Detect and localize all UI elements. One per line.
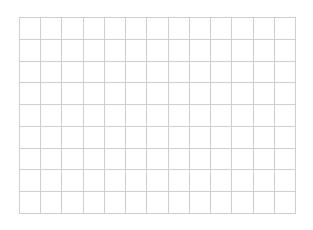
grid-cell: [105, 18, 126, 40]
grid-cell: [41, 62, 62, 84]
grid-cell: [211, 40, 232, 62]
grid-cell: [169, 149, 190, 171]
grid-cell: [105, 149, 126, 171]
grid-cell: [105, 83, 126, 105]
grid-cell: [84, 40, 105, 62]
grid-cell: [20, 62, 41, 84]
grid-cell: [275, 83, 296, 105]
grid-cell: [41, 149, 62, 171]
grid-cell: [275, 192, 296, 214]
grid-cell: [211, 149, 232, 171]
grid-cell: [41, 83, 62, 105]
grid-cell: [20, 170, 41, 192]
grid-cell: [275, 127, 296, 149]
grid-cell: [211, 170, 232, 192]
grid-cell: [84, 170, 105, 192]
grid-cell: [169, 40, 190, 62]
grid-cell: [147, 62, 168, 84]
grid-cell: [232, 62, 253, 84]
grid-cell: [232, 192, 253, 214]
grid-cell: [62, 170, 83, 192]
grid-cell: [41, 105, 62, 127]
grid-cell: [190, 18, 211, 40]
grid-cell: [84, 62, 105, 84]
grid-cell: [105, 62, 126, 84]
grid-cell: [254, 40, 275, 62]
grid-cell: [147, 192, 168, 214]
grid-cell: [254, 83, 275, 105]
grid-cell: [254, 62, 275, 84]
grid-cell: [275, 62, 296, 84]
grid-cell: [126, 170, 147, 192]
grid-cell: [169, 192, 190, 214]
grid-cell: [84, 127, 105, 149]
grid-cell: [211, 192, 232, 214]
grid-cell: [84, 105, 105, 127]
grid-cell: [62, 40, 83, 62]
grid-cell: [62, 149, 83, 171]
grid-cell: [147, 149, 168, 171]
grid-cell: [190, 192, 211, 214]
grid-cell: [254, 105, 275, 127]
grid-cell: [41, 192, 62, 214]
grid-cell: [41, 127, 62, 149]
grid-cell: [254, 170, 275, 192]
grid-cell: [105, 105, 126, 127]
grid-cell: [126, 83, 147, 105]
grid-cell: [232, 18, 253, 40]
grid-cell: [62, 127, 83, 149]
empty-grid: [19, 17, 296, 214]
grid-cell: [190, 149, 211, 171]
grid-cell: [126, 149, 147, 171]
grid-cell: [211, 127, 232, 149]
grid-cell: [84, 192, 105, 214]
grid-cell: [211, 83, 232, 105]
grid-cell: [254, 18, 275, 40]
grid-cell: [232, 83, 253, 105]
grid-cell: [147, 127, 168, 149]
grid-cell: [190, 40, 211, 62]
grid-cell: [20, 192, 41, 214]
grid-cell: [232, 105, 253, 127]
grid-cell: [232, 149, 253, 171]
grid-cell: [211, 105, 232, 127]
grid-cell: [147, 18, 168, 40]
grid-cell: [147, 40, 168, 62]
grid-cell: [126, 40, 147, 62]
grid-cell: [169, 18, 190, 40]
grid-cell: [190, 62, 211, 84]
grid-cell: [84, 149, 105, 171]
grid-cell: [105, 127, 126, 149]
grid-cell: [254, 149, 275, 171]
grid-cell: [84, 83, 105, 105]
grid-cell: [126, 62, 147, 84]
grid-cell: [62, 62, 83, 84]
grid-cell: [41, 18, 62, 40]
grid-cell: [20, 18, 41, 40]
grid-cell: [105, 40, 126, 62]
grid-cell: [20, 105, 41, 127]
grid-cell: [41, 40, 62, 62]
grid-cell: [169, 127, 190, 149]
grid-cell: [275, 170, 296, 192]
grid-cell: [169, 170, 190, 192]
grid-cell: [232, 127, 253, 149]
grid-cell: [20, 83, 41, 105]
grid-cell: [232, 170, 253, 192]
grid-cell: [126, 192, 147, 214]
grid-cell: [211, 18, 232, 40]
grid-cell: [169, 83, 190, 105]
grid-cell: [62, 105, 83, 127]
grid-cell: [126, 18, 147, 40]
grid-cell: [20, 40, 41, 62]
grid-cell: [20, 149, 41, 171]
grid-cell: [190, 170, 211, 192]
grid-cell: [275, 40, 296, 62]
grid-cell: [84, 18, 105, 40]
grid-cell: [147, 105, 168, 127]
grid-cell: [211, 62, 232, 84]
grid-cell: [254, 127, 275, 149]
grid-cell: [105, 170, 126, 192]
grid-cell: [62, 192, 83, 214]
grid-cell: [41, 170, 62, 192]
